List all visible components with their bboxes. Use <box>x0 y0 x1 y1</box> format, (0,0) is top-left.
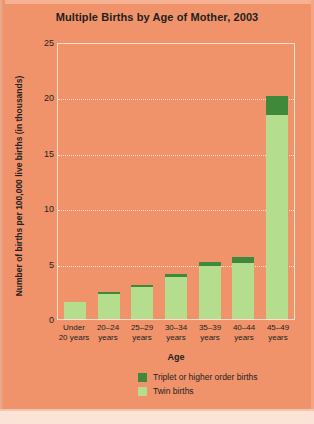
bar-group <box>199 44 221 319</box>
legend-label: Triplet or higher order births <box>153 372 258 382</box>
bar-group <box>165 44 187 319</box>
x-tick-line1: 25–29 <box>131 323 153 332</box>
bar-group <box>232 44 254 319</box>
chart-legend: Triplet or higher order birthsTwin birth… <box>138 372 314 400</box>
plot-area <box>57 43 295 320</box>
bar-group <box>131 44 153 319</box>
x-tick-line1: 35–39 <box>199 323 221 332</box>
paper-left-edge <box>0 0 5 424</box>
x-tick-line1: 20–24 <box>97 323 119 332</box>
x-tick-line2: 20 years <box>58 333 90 343</box>
x-tick-label: Under20 years <box>58 323 90 353</box>
bar-segment-twin <box>98 294 120 319</box>
x-tick-line2: years <box>228 333 260 343</box>
x-tick-line1: 45–49 <box>267 323 289 332</box>
legend-swatch-icon <box>138 387 147 396</box>
y-tick-label: 15 <box>18 149 54 159</box>
legend-label: Twin births <box>153 386 194 396</box>
x-tick-label: 25–29years <box>126 323 158 353</box>
y-tick-label: 5 <box>18 260 54 270</box>
y-tick-label: 0 <box>18 315 54 325</box>
x-tick-label: 35–39years <box>194 323 226 353</box>
x-tick-line2: years <box>160 333 192 343</box>
bar-segment-twin <box>266 115 288 319</box>
x-tick-line1: 30–34 <box>165 323 187 332</box>
paper-right-edge <box>311 0 314 424</box>
legend-item: Triplet or higher order births <box>138 372 314 382</box>
x-tick-line1: 40–44 <box>233 323 255 332</box>
x-tick-line2: years <box>194 333 226 343</box>
bar-segment-twin <box>165 277 187 319</box>
bar-segment-triplet <box>266 96 288 115</box>
bar-group <box>98 44 120 319</box>
x-tick-label: 45–49years <box>262 323 294 353</box>
legend-item: Twin births <box>138 386 314 396</box>
x-tick-line2: years <box>92 333 124 343</box>
bar-group <box>266 44 288 319</box>
x-tick-label: 30–34years <box>160 323 192 353</box>
x-tick-label: 40–44years <box>228 323 260 353</box>
y-tick-labels: 0510152025 <box>12 0 54 424</box>
legend-swatch-icon <box>138 373 147 382</box>
x-tick-line2: years <box>262 333 294 343</box>
chart-figure: Multiple Births by Age of Mother, 2003 N… <box>0 0 314 424</box>
x-axis-title: Age <box>57 352 295 362</box>
x-tick-labels: Under20 years20–24years25–29years30–34ye… <box>57 323 295 353</box>
x-tick-line2: years <box>126 333 158 343</box>
x-tick-line1: Under <box>63 323 85 332</box>
y-tick-label: 25 <box>18 38 54 48</box>
bar-segment-twin <box>199 266 221 319</box>
y-tick-label: 10 <box>18 204 54 214</box>
bar-segment-twin <box>131 287 153 319</box>
bar-segment-twin <box>64 302 86 319</box>
bar-segment-twin <box>232 263 254 320</box>
bar-group <box>64 44 86 319</box>
y-tick-label: 20 <box>18 93 54 103</box>
bars-layer <box>58 44 294 319</box>
x-tick-label: 20–24years <box>92 323 124 353</box>
